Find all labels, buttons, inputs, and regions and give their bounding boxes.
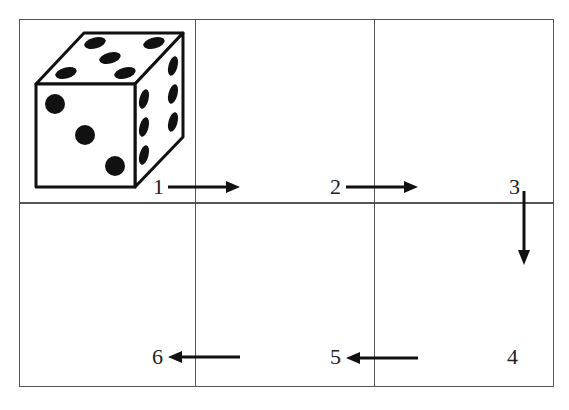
arrow-left-icon bbox=[346, 352, 360, 364]
step-label-3: 3 bbox=[509, 176, 520, 198]
arrow-right-icon bbox=[226, 181, 240, 193]
arrow-right-icon bbox=[404, 181, 418, 193]
step-label-4: 4 bbox=[507, 346, 518, 368]
step-label-5: 5 bbox=[330, 346, 341, 368]
step-label-6: 6 bbox=[152, 346, 163, 368]
step-label-1: 1 bbox=[153, 176, 164, 198]
arrow-left-icon bbox=[168, 351, 182, 363]
arrow-icons bbox=[168, 181, 530, 364]
arrow-down-icon bbox=[518, 250, 530, 265]
step-label-2: 2 bbox=[330, 176, 341, 198]
dice-illustration bbox=[0, 0, 569, 410]
